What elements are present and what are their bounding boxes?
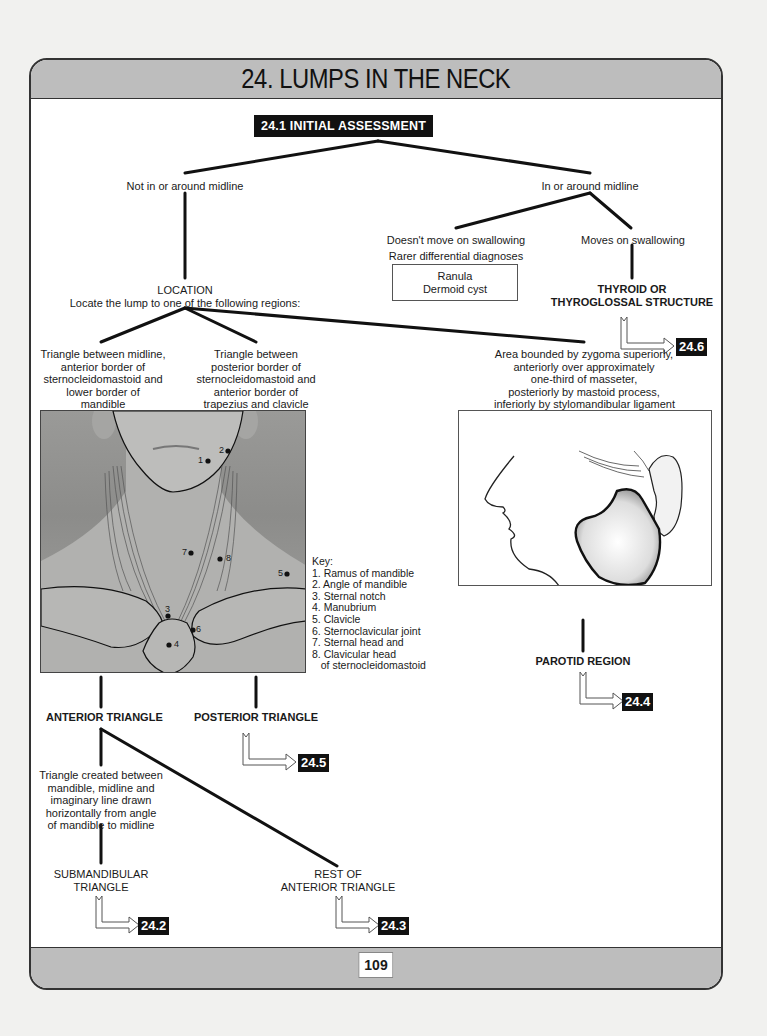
ref-24-2[interactable]: 24.2	[138, 917, 169, 935]
posterior-triangle-label: POSTERIOR TRIANGLE	[193, 711, 319, 724]
anterior-region-desc: Triangle between midline, anterior borde…	[36, 348, 170, 411]
ref-24-5[interactable]: 24.5	[298, 754, 329, 772]
photo-point-label: 1	[198, 455, 203, 465]
arrow-to-24-2	[96, 896, 139, 933]
rest-anterior-triangle-label: REST OF ANTERIOR TRIANGLE	[278, 868, 398, 893]
photo-point-label: 2	[219, 445, 224, 455]
arrow-to-24-5	[243, 733, 296, 770]
location-heading: LOCATION Locate the lump to one of the f…	[60, 284, 310, 309]
moves-label: Moves on swallowing	[578, 234, 688, 247]
parotid-region-desc: Area bounded by zygoma superiorly, anter…	[494, 348, 674, 411]
ref-24-4[interactable]: 24.4	[622, 693, 653, 711]
photo-point-label: 7	[182, 547, 187, 557]
anterior-triangle-label: ANTERIOR TRIANGLE	[46, 711, 156, 724]
differential-box: Ranula Dermoid cyst	[392, 264, 518, 301]
parotid-illustration	[458, 410, 712, 586]
photo-point-label: 5	[278, 568, 283, 578]
photo-point-label: 3	[165, 604, 170, 614]
midline-label: In or around midline	[535, 180, 645, 193]
posterior-region-desc: Triangle between posterior border of ste…	[192, 348, 320, 411]
thyroid-label: THYROID OR THYROGLOSSAL STRUCTURE	[550, 283, 714, 308]
diff-item: Dermoid cyst	[393, 283, 517, 296]
neck-anatomy-photo: 1 2 3 4 5 6 7 8	[40, 410, 306, 673]
submandibular-triangle-label: SUBMANDIBULAR TRIANGLE	[46, 868, 156, 893]
photo-key: Key: 1. Ramus of mandible 2. Angle of ma…	[312, 556, 426, 672]
ref-24-6[interactable]: 24.6	[676, 338, 707, 356]
not-midline-label: Not in or around midline	[120, 180, 250, 193]
initial-assessment-badge[interactable]: 24.1 INITIAL ASSESSMENT	[254, 115, 433, 137]
ref-24-3[interactable]: 24.3	[378, 917, 409, 935]
parotid-region-label: PAROTID REGION	[528, 655, 638, 668]
photo-point-label: 4	[174, 639, 179, 649]
arrow-to-24-3	[336, 896, 379, 933]
doesnt-move-label: Doesn't move on swallowing	[384, 234, 528, 247]
submandibular-desc: Triangle created between mandible, midli…	[36, 769, 166, 832]
diff-item: Ranula	[393, 270, 517, 283]
arrow-to-24-4	[580, 672, 623, 709]
photo-point-label: 8	[226, 553, 231, 563]
photo-point-label: 6	[196, 624, 201, 634]
rarer-label: Rarer differential diagnoses	[384, 250, 528, 263]
